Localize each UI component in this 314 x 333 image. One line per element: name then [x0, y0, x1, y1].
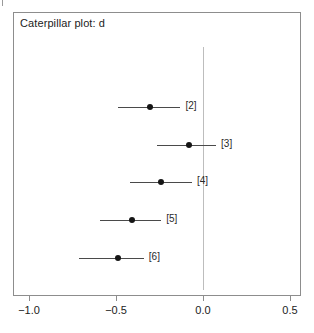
estimate-point [158, 179, 164, 185]
interval-label: [3] [221, 138, 232, 149]
x-axis-tick [290, 296, 291, 301]
interval-row: [2] [0, 102, 314, 113]
scan-artifact-mark [2, 0, 3, 6]
caterpillar-plot-screenshot: Caterpillar plot: d [2][3][4][5][6] −1.0… [0, 0, 314, 333]
interval-row: [3] [0, 140, 314, 151]
x-axis-tick [203, 296, 204, 301]
estimate-point [115, 255, 121, 261]
interval-label: [2] [185, 100, 196, 111]
estimate-point [129, 217, 135, 223]
confidence-interval-bar [79, 258, 143, 259]
interval-row: [4] [0, 177, 314, 188]
x-axis-tick [116, 296, 117, 301]
interval-row: [5] [0, 215, 314, 226]
x-axis-tick-label: 0.0 [195, 304, 210, 316]
interval-row: [6] [0, 253, 314, 264]
interval-label: [5] [166, 213, 177, 224]
x-axis-tick-label: 0.5 [282, 304, 297, 316]
x-axis-tick [29, 296, 30, 301]
plot-title: Caterpillar plot: d [20, 17, 105, 29]
interval-label: [4] [197, 175, 208, 186]
x-axis-tick-label: −1.0 [18, 304, 40, 316]
x-axis-tick-label: −0.5 [105, 304, 127, 316]
interval-label: [6] [149, 251, 160, 262]
estimate-point [186, 142, 192, 148]
estimate-point [147, 104, 153, 110]
